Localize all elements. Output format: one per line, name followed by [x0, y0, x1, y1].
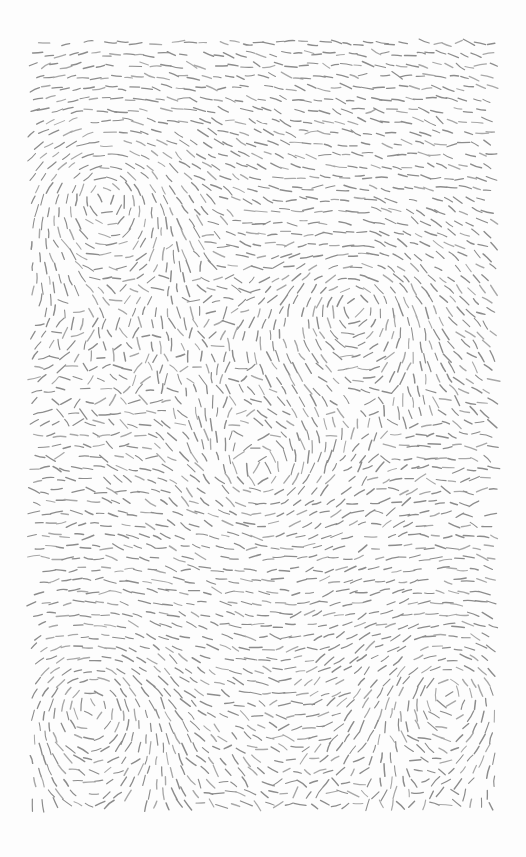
dash-stroke	[434, 635, 446, 636]
dash-stroke	[99, 415, 110, 416]
dash-stroke	[303, 728, 315, 729]
dash-stroke	[384, 764, 385, 777]
artwork-canvas: Flow Field Dash Study	[0, 0, 526, 857]
dash-stroke	[431, 535, 439, 536]
dash-stroke	[274, 222, 282, 223]
dash-stroke	[158, 218, 159, 229]
dash-stroke	[248, 680, 256, 681]
dash-stroke	[426, 613, 439, 614]
dash-stroke	[211, 346, 224, 347]
dash-stroke	[181, 546, 189, 547]
dash-stroke	[33, 52, 43, 53]
dash-stroke	[151, 208, 152, 218]
dash-stroke	[463, 535, 474, 536]
dash-stroke	[409, 109, 418, 110]
dash-stroke	[341, 200, 349, 201]
dash-stroke	[32, 263, 33, 270]
dash-stroke	[290, 142, 303, 143]
dash-stroke	[252, 580, 261, 581]
dash-stroke	[429, 155, 441, 156]
dash-stroke	[450, 76, 458, 77]
dash-stroke	[464, 600, 475, 601]
dash-stroke	[320, 201, 329, 202]
dash-stroke	[435, 688, 436, 700]
dash-stroke	[83, 782, 95, 783]
dash-stroke	[320, 41, 331, 42]
dash-stroke	[48, 229, 49, 238]
dash-stroke	[370, 308, 371, 316]
dash-stroke	[410, 760, 421, 761]
dash-stroke	[105, 648, 115, 649]
dash-stroke	[294, 53, 302, 54]
dash-stroke	[101, 615, 110, 616]
dash-stroke	[354, 198, 365, 199]
dash-stroke	[171, 338, 172, 350]
dash-stroke	[135, 526, 145, 527]
dash-stroke	[385, 722, 386, 733]
dash-stroke	[101, 526, 112, 527]
dash-stroke	[358, 212, 369, 213]
dash-stroke	[47, 612, 55, 613]
dash-stroke	[323, 52, 335, 53]
dash-stroke	[42, 603, 50, 604]
dash-stroke	[448, 481, 455, 482]
dash-stroke	[425, 52, 434, 53]
dash-stroke	[295, 714, 305, 715]
dash-stroke	[376, 177, 387, 178]
dash-stroke	[85, 693, 96, 694]
dash-stroke	[89, 638, 98, 639]
dash-stroke	[89, 794, 98, 795]
dash-stroke	[186, 388, 187, 396]
dash-stroke	[416, 548, 425, 549]
dash-stroke	[467, 470, 475, 471]
dash-stroke	[233, 87, 241, 88]
dash-stroke	[455, 558, 465, 559]
dash-stroke	[49, 723, 50, 731]
dash-stroke	[65, 310, 66, 318]
dash-stroke	[385, 44, 395, 45]
dash-stroke	[309, 110, 318, 111]
dash-stroke	[150, 723, 151, 731]
dash-stroke	[481, 477, 491, 478]
dash-stroke	[102, 567, 111, 568]
dash-stroke	[78, 591, 88, 592]
dash-stroke	[50, 294, 51, 305]
dash-stroke	[380, 121, 389, 122]
dash-stroke	[216, 579, 227, 580]
dash-stroke	[115, 112, 128, 113]
dash-stroke	[423, 636, 436, 637]
dash-stroke	[425, 593, 435, 594]
dash-stroke	[42, 514, 51, 515]
dash-stroke	[150, 66, 161, 67]
dash-stroke	[443, 647, 451, 648]
dash-stroke	[292, 546, 303, 547]
dash-stroke	[176, 88, 184, 89]
dash-stroke	[135, 435, 146, 436]
dash-stroke	[284, 266, 294, 267]
dash-stroke	[177, 284, 178, 292]
dash-stroke	[428, 444, 440, 445]
dash-stroke	[135, 54, 143, 55]
dash-stroke	[379, 100, 391, 101]
dash-stroke	[265, 242, 275, 243]
dash-stroke	[453, 444, 461, 445]
dash-stroke	[40, 253, 41, 262]
dash-stroke	[31, 242, 32, 249]
dash-stroke	[113, 278, 121, 279]
dash-stroke	[299, 65, 308, 66]
dash-stroke	[235, 368, 247, 369]
dash-stroke	[362, 152, 373, 153]
dash-stroke	[97, 671, 105, 672]
dash-stroke	[220, 623, 229, 624]
dash-stroke	[75, 534, 84, 535]
dash-stroke	[417, 699, 418, 711]
dash-stroke	[80, 548, 90, 549]
dash-stroke	[93, 156, 104, 157]
dash-stroke	[389, 545, 402, 546]
dash-stroke	[119, 132, 127, 133]
dash-stroke	[354, 45, 363, 46]
dash-stroke	[150, 44, 162, 45]
dash-stroke	[399, 86, 407, 87]
dash-stroke	[252, 716, 263, 717]
dash-stroke	[123, 711, 124, 720]
